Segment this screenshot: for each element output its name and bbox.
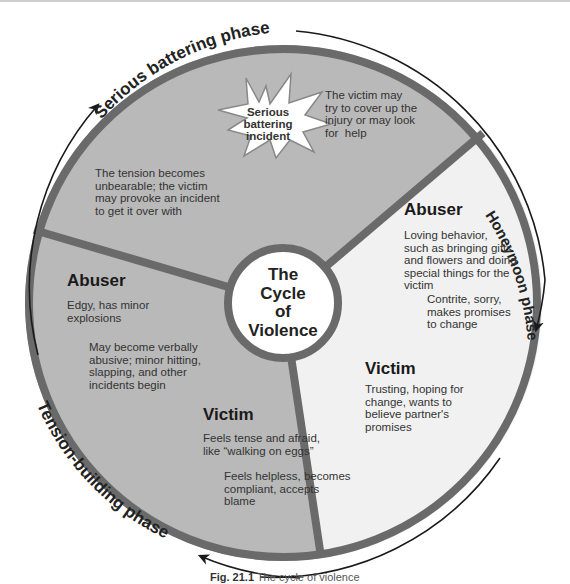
center-line: The [233,266,333,285]
text-line: may provoke an incident [95,192,220,205]
tension-victim-text: Feels tense and afraid, like “walking on… [203,432,320,457]
text-line: Feels tense and afraid, [203,432,320,445]
serious-right-text: The victim may try to cover up the injur… [325,89,417,139]
center-title: The Cycle of Violence [233,266,333,340]
text-line: The victim may [325,89,417,102]
text-line: blame [224,495,351,508]
text-line: Edgy, has minor [67,299,149,312]
tension-abuser-text-2: May become verbally abusive; minor hitti… [89,341,201,391]
tension-abuser-heading: Abuser [67,271,126,291]
honeymoon-abuser-text-2: Contrite, sorry, makes promises to chang… [427,293,511,331]
text-line: and flowers and doing [404,254,517,267]
text-line: for help [325,127,417,140]
text-line: slapping, and other [89,366,201,379]
text-line: victim [404,279,517,292]
caption-text: The cycle of violence [257,571,360,583]
text-line: Trusting, hoping for [365,383,464,396]
honeymoon-victim-text: Trusting, hoping for change, wants to be… [365,383,464,433]
text-line: to get it over with [95,205,220,218]
serious-left-text: The tension becomes unbearable; the vict… [95,167,220,217]
text-line: The tension becomes [95,167,220,180]
text-line: Loving behavior, [404,229,517,242]
center-line: Cycle [233,285,333,304]
honeymoon-abuser-heading: Abuser [404,200,463,220]
burst-line: Serious [240,106,296,118]
text-line: compliant, accepts [224,483,351,496]
text-line: unbearable; the victim [95,180,220,193]
tension-victim-text-2: Feels helpless, becomes compliant, accep… [224,470,351,508]
text-line: believe partner's [365,408,464,421]
text-line: special things for the [404,267,517,280]
text-line: injury or may look [325,114,417,127]
text-line: promises [365,421,464,434]
burst-line: incident [240,130,296,142]
text-line: like “walking on eggs” [203,445,320,458]
tension-victim-heading: Victim [203,405,254,425]
center-line: of [233,303,333,322]
text-line: Feels helpless, becomes [224,470,351,483]
text-line: to change [427,318,511,331]
text-line: such as bringing gifts [404,242,517,255]
text-line: abusive; minor hitting, [89,354,201,367]
burst-label: Serious battering incident [240,106,296,142]
text-line: May become verbally [89,341,201,354]
burst-line: battering [240,118,296,130]
text-line: change, wants to [365,396,464,409]
text-line: try to cover up the [325,102,417,115]
text-line: Contrite, sorry, [427,293,511,306]
text-line: explosions [67,312,149,325]
honeymoon-abuser-text: Loving behavior, such as bringing gifts … [404,229,517,292]
caption-label: Fig. 21.1 [210,571,254,583]
center-line: Violence [233,322,333,341]
figure-caption: Fig. 21.1 The cycle of violence [210,571,360,583]
tension-abuser-text: Edgy, has minor explosions [67,299,149,324]
text-line: makes promises [427,306,511,319]
text-line: incidents begin [89,379,201,392]
honeymoon-victim-heading: Victim [365,359,416,379]
